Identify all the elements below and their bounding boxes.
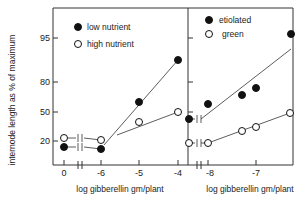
right-y-axis-ticks [188, 38, 193, 112]
right-x-axis-title: log gibberellin gm/plant [206, 184, 294, 194]
x-tick-0: 0 [61, 168, 66, 178]
y-tick-80: 80 [40, 77, 50, 87]
x-tick-neg7: -7 [252, 168, 260, 178]
data-point [175, 109, 182, 116]
x-tick-neg6: -6 [97, 168, 105, 178]
y-tick-20: 20 [40, 136, 50, 146]
series-green [186, 110, 294, 147]
chart-canvas: 95 80 50 20 internode length as % of max… [0, 0, 305, 201]
left-x-axis-title: log gibberellin gm/plant [76, 184, 164, 194]
series-low-nutrient [61, 57, 182, 153]
y-axis-ticks [53, 38, 58, 141]
legend-marker-filled-icon [75, 24, 82, 31]
right-legend: etiolated green [206, 15, 252, 39]
legend-marker-open-icon [75, 41, 82, 48]
data-point [136, 99, 143, 106]
data-point [98, 146, 105, 153]
data-point [239, 92, 246, 99]
legend-marker-open-icon [206, 31, 213, 38]
y-tick-50: 50 [40, 107, 50, 117]
legend-etiolated: etiolated [219, 15, 251, 25]
left-legend: low nutrient high nutrient [75, 22, 135, 49]
data-point [253, 124, 260, 131]
y-tick-95: 95 [40, 33, 50, 43]
data-point [186, 140, 193, 147]
left-series-lines [64, 60, 178, 151]
data-point [61, 144, 68, 151]
data-point [136, 119, 143, 126]
x-tick-neg8: -8 [206, 168, 214, 178]
data-point [98, 137, 105, 144]
data-point [175, 57, 182, 64]
x-tick-neg4: -4 [174, 168, 182, 178]
data-point [186, 116, 193, 123]
data-point [61, 135, 68, 142]
data-point [253, 85, 260, 92]
y-axis-title: internode length as % of maximum [7, 35, 17, 166]
data-point [205, 101, 212, 108]
legend-high-nutrient: high nutrient [87, 39, 134, 49]
legend-marker-filled-icon [206, 17, 213, 24]
data-point [239, 128, 246, 135]
legend-low-nutrient: low nutrient [87, 22, 131, 32]
data-point [205, 140, 212, 147]
series-etiolated [186, 31, 295, 123]
data-point [288, 31, 295, 38]
x-tick-neg5: -5 [135, 168, 143, 178]
data-point [287, 110, 294, 117]
legend-green: green [222, 29, 244, 39]
